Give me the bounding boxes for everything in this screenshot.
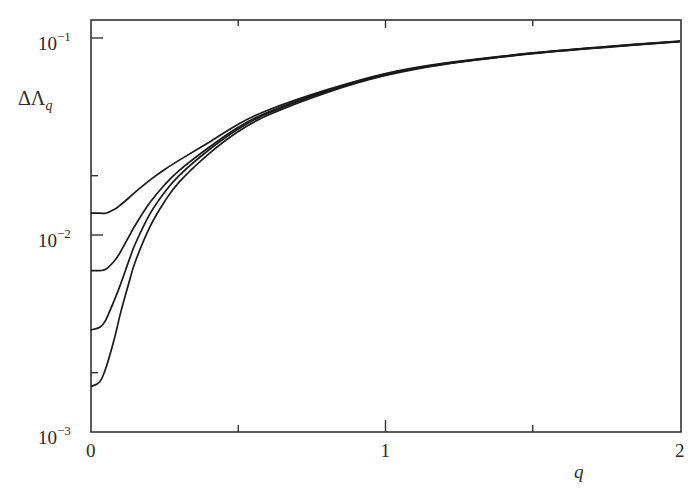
- plot-frame: [91, 20, 681, 432]
- y-axis-label-main: ΔΛ: [18, 87, 45, 109]
- data-line-curve-1: [91, 41, 680, 213]
- y-axis-label-subscript: q: [45, 98, 52, 113]
- x-tick-label: 1: [381, 441, 391, 460]
- x-tick-label: 2: [675, 441, 685, 460]
- y-axis-label: ΔΛq: [18, 88, 52, 113]
- x-tick-label: 0: [86, 441, 96, 460]
- y-tick-label: 10−3: [38, 426, 71, 447]
- x-axis-label: q: [574, 462, 584, 481]
- axis-ticks: [91, 20, 533, 432]
- y-tick-label: 10−2: [38, 229, 71, 250]
- y-tick-label: 10−1: [38, 32, 71, 53]
- data-line-curve-4: [91, 42, 680, 387]
- data-curves: [91, 41, 680, 387]
- data-line-curve-3: [91, 41, 680, 329]
- chart-canvas: [0, 0, 700, 498]
